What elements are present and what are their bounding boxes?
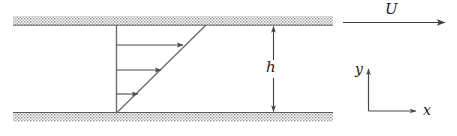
velocity-label-U: U xyxy=(385,2,398,17)
axis-label-x: x xyxy=(423,103,431,117)
top-wall xyxy=(13,16,333,25)
velocity-profile-group xyxy=(117,25,207,113)
diagram-canvas xyxy=(0,0,457,136)
bottom-wall xyxy=(13,113,333,122)
couette-flow-diagram: U h y x xyxy=(0,0,457,136)
axis-label-y: y xyxy=(355,62,363,76)
coordinate-axes xyxy=(369,69,417,111)
gap-height-label-h: h xyxy=(266,60,276,75)
profile-envelope-line xyxy=(117,25,207,113)
